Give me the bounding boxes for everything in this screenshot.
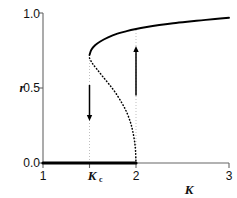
series-stable-upper-branch	[90, 18, 230, 55]
y-tick-label-1: 1.0	[23, 7, 40, 21]
up-arrow	[133, 46, 138, 96]
flow-arrows	[87, 46, 139, 121]
y-tick-label-0: 0.0	[23, 156, 40, 170]
kc-subscript: c	[99, 175, 103, 184]
down-arrow	[87, 85, 92, 121]
kc-base-letter: K	[87, 168, 98, 183]
guide-lines	[90, 29, 137, 163]
series-unstable-branch	[90, 58, 137, 163]
chart-canvas: 1.0 0.5 0.0 r 1 K c 2 3 K	[0, 0, 237, 198]
x-tick-label-1: 1	[40, 169, 47, 183]
y-tick-label-0-5: 0.5	[23, 81, 40, 95]
x-tick-label-kc: K c	[87, 168, 103, 184]
x-tick-label-2: 2	[133, 169, 140, 183]
x-axis-title: K	[184, 182, 195, 197]
bifurcation-diagram-figure: 1.0 0.5 0.0 r 1 K c 2 3 K	[0, 0, 237, 198]
x-tick-label-3: 3	[226, 169, 233, 183]
